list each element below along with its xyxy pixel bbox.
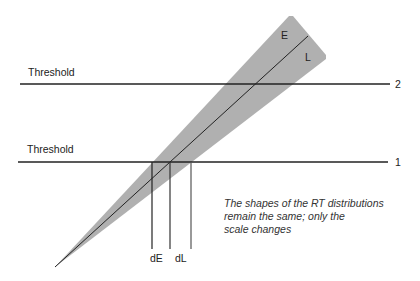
threshold-2-label: Threshold bbox=[28, 66, 75, 78]
note-line-2: remain the same; only the bbox=[224, 210, 420, 223]
note-line-1: The shapes of the RT distributions bbox=[224, 197, 420, 210]
marker-de-label: dE bbox=[150, 252, 163, 264]
wedge-upper-label: E bbox=[281, 29, 288, 41]
annotation-note: The shapes of the RT distributions remai… bbox=[224, 197, 420, 236]
threshold-1-number: 1 bbox=[395, 156, 401, 168]
note-line-3: scale changes bbox=[224, 223, 420, 236]
marker-dl-label: dL bbox=[175, 252, 187, 264]
wedge-lower-label: L bbox=[305, 51, 311, 63]
threshold-2-number: 2 bbox=[395, 78, 401, 90]
threshold-1-label: Threshold bbox=[27, 143, 74, 155]
diagram-canvas: Threshold Threshold 2 1 E L dE dL bbox=[0, 0, 420, 281]
